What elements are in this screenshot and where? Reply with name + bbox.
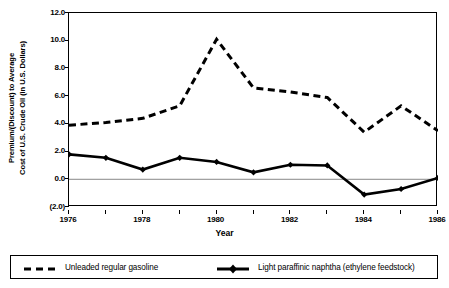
y-axis-tick-labels: 12.010.08.06.04.02.00.0(2.0) [34,0,65,215]
x-tick-mark [437,210,438,214]
x-tick-mark [400,210,401,214]
chart-figure: Premium/(Discount) to Average Cost of U.… [0,0,449,288]
x-tick-label: 1976 [60,215,77,225]
x-tick-label: 1982 [281,215,298,225]
x-tick-mark [68,210,69,214]
y-tick-label: 0.0 [35,174,65,183]
y-tick-label: (2.0) [35,202,65,211]
y-tick-label: 8.0 [35,63,65,72]
chart-legend: Unleaded regular gasoline Light paraffin… [10,255,438,279]
legend-swatch-solid-diamond-icon [216,261,250,273]
series-marker-1 [250,169,256,175]
y-tick-label: 2.0 [35,146,65,155]
y-axis-title: Premium/(Discount) to Average Cost of U.… [0,0,34,215]
legend-label-0: Unleaded regular gasoline [65,263,158,272]
x-tick-label: 1984 [355,215,372,225]
y-tick-label: 4.0 [35,118,65,127]
series-marker-1 [69,151,72,157]
x-tick-mark [326,210,327,214]
series-marker-1 [140,166,146,172]
series-marker-1 [287,162,293,168]
legend-swatch-dashed-icon [23,261,57,273]
x-tick-label: 1978 [133,215,150,225]
x-tick-mark [253,210,254,214]
series-marker-1 [177,155,183,161]
x-axis-tick-labels: 197619781980198219841986 [68,210,437,226]
y-tick-label: 12.0 [35,8,65,17]
legend-item-unleaded-regular-gasoline: Unleaded regular gasoline [23,256,158,278]
plot-area [68,12,437,206]
x-tick-label: 1986 [429,215,446,225]
series-marker-1 [398,186,404,192]
x-tick-mark [363,210,364,214]
series-marker-1 [103,155,109,161]
x-tick-mark [289,210,290,214]
plot-canvas [69,13,438,207]
legend-item-light-paraffinic-naphtha: Light paraffinic naphtha (ethylene feeds… [216,256,414,278]
x-tick-mark [216,210,217,214]
x-tick-mark [105,210,106,214]
series-marker-1 [214,159,220,165]
y-tick-label: 10.0 [35,35,65,44]
series-marker-1 [435,175,438,181]
x-tick-label: 1980 [207,215,224,225]
x-axis-title: Year [0,228,449,238]
y-axis-title-line-1: Premium/(Discount) to Average [6,41,17,175]
x-tick-mark [179,210,180,214]
y-tick-label: 6.0 [35,91,65,100]
series-line-0 [69,39,438,132]
legend-label-1: Light paraffinic naphtha (ethylene feeds… [258,263,414,272]
y-axis-title-line-2: Cost of U.S. Crude Oil (in U.S. Dollars) [17,41,28,175]
x-tick-mark [142,210,143,214]
